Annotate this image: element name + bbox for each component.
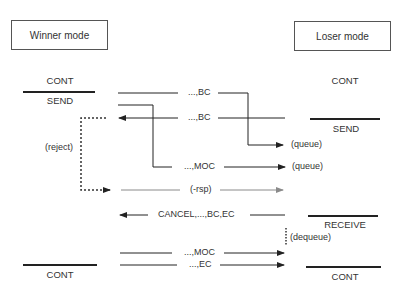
right-state-send: SEND — [333, 124, 359, 134]
msg7-label: ...,EC — [189, 260, 212, 269]
msg6-label: ...,MOC — [184, 248, 215, 257]
dequeue-annotation: (dequeue) — [290, 233, 331, 242]
winner-mode-title: Winner mode — [30, 30, 89, 41]
right-state-receive: RECEIVE — [324, 220, 366, 230]
msg1-arrow — [218, 93, 283, 145]
queue-annotation-2: (queue) — [292, 162, 323, 171]
loser-mode-title: Loser mode — [316, 31, 369, 42]
msg4-label: (-rsp) — [190, 185, 212, 194]
reject-bracket — [81, 118, 110, 190]
right-state-cont: CONT — [332, 76, 359, 86]
left-state-send: SEND — [47, 96, 73, 106]
left-state-cont: CONT — [47, 76, 74, 86]
msg5-label: CANCEL,...,BC,EC — [158, 210, 235, 219]
right-state-cont-bottom: CONT — [332, 272, 359, 282]
winner-mode-box: Winner mode — [11, 20, 108, 50]
loser-mode-box: Loser mode — [294, 21, 391, 51]
queue-annotation-1: (queue) — [291, 140, 322, 149]
sequence-diagram: Winner mode Loser mode CONT SEND CONT CO… — [0, 0, 404, 294]
msg2-label: ...,BC — [188, 113, 211, 122]
reject-annotation: (reject) — [45, 143, 73, 152]
msg3-label: ...,MOC — [184, 162, 215, 171]
msg1-label: ...,BC — [188, 88, 211, 97]
left-state-cont-bottom: CONT — [47, 270, 74, 280]
